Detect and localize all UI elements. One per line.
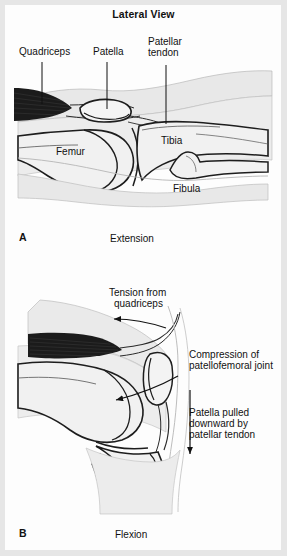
label-tension-line2: quadriceps	[114, 299, 163, 310]
label-patella: Patella	[93, 47, 124, 58]
panel-a-caption: Extension	[110, 233, 154, 244]
label-patella-pulled-line1: Patella pulled	[189, 408, 249, 419]
page-border-bottom	[0, 550, 287, 556]
figure-page: Lateral View	[0, 0, 287, 556]
anterior-skin-contour2-b	[178, 308, 189, 512]
panel-b-caption: Flexion	[115, 529, 147, 540]
panel-a-letter: A	[19, 232, 27, 243]
label-tibia: Tibia	[161, 136, 182, 147]
label-quadriceps: Quadriceps	[19, 47, 70, 58]
label-compression-line2: patellofemoral joint	[189, 361, 273, 372]
label-fibula: Fibula	[173, 184, 200, 195]
label-tension-line1: Tension from	[109, 288, 166, 299]
label-patella-pulled-line3: patellar tendon	[189, 430, 255, 441]
label-patellar-tendon-line2: tendon	[148, 48, 179, 59]
label-patella-pulled-line2: downward by	[189, 419, 248, 430]
label-patellar-tendon-line1: Patellar	[148, 37, 182, 48]
label-femur: Femur	[56, 147, 85, 158]
label-compression-line1: Compression of	[189, 350, 259, 361]
patella-bone-b	[143, 353, 172, 405]
panel-b-illustration	[0, 282, 287, 522]
panel-a-leader-lines	[0, 0, 287, 240]
panel-b-letter: B	[19, 528, 27, 539]
